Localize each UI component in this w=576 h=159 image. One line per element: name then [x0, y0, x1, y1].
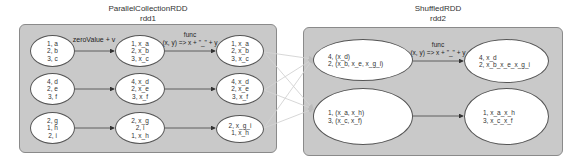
node-line: 3, (x_c, x_f) [328, 117, 362, 125]
node-line: 3, f [48, 93, 57, 101]
node-line: 3, c [47, 55, 57, 63]
rdd2-arrows [413, 61, 463, 116]
rdd1-mapped-node-1: 1, x_a 2, x_b 3, x_c [115, 35, 165, 67]
node-line: 1, x_a_x_h [483, 109, 515, 117]
node-line: 2, x_b [231, 47, 249, 55]
node-line: 4, x_d [479, 54, 497, 62]
node-line: 2, i [48, 132, 57, 140]
node-line: 1, (x_a, x_h) [328, 109, 364, 117]
rdd1-combined-node-2: 4, x_d 2, x_e 3, x_f [216, 73, 264, 105]
rdd1-input-node-2: 4, d 2, e 3, f [30, 73, 75, 105]
rdd1-input-node-3: 2, g 1, h 2, i [30, 112, 75, 144]
rdd2-func-expr: (x, y) => x + "_" + y [403, 49, 473, 57]
node-line: 1, x_h [131, 132, 149, 140]
node-line: 1, h [47, 124, 58, 132]
node-line: 2, x_e [231, 85, 249, 93]
rdd2-func-label: func (x, y) => x + "_" + y [403, 41, 473, 56]
node-line: 2, x_e [131, 85, 149, 93]
node-line: 2, (x_b, x_e, x_g_i) [328, 60, 383, 68]
node-line: 3, x_f [132, 93, 148, 101]
node-line: 4, (x_d) [328, 53, 350, 61]
shuffle-lines [264, 52, 313, 128]
node-line: 1, a [47, 40, 58, 48]
node-line: 1, x_a [131, 40, 149, 48]
rdd1-combined-node-1: 1, x_a 2, x_b 3, x_c [216, 35, 264, 67]
node-line: 2, x_b [131, 47, 149, 55]
node-line: 3, x_f [232, 93, 248, 101]
rdd2-func-name: func [403, 41, 473, 49]
rdd2-result-node-1: 4, x_d 2, x_b_x_e_x_g_i [464, 39, 549, 83]
node-line: 4, d [47, 78, 58, 86]
node-line: 2, b [47, 47, 58, 55]
node-line: 2, x_b_x_e_x_g_i [479, 61, 530, 69]
rdd2-result-node-2: 1, x_a_x_h 3, x_c_x_f [464, 88, 549, 145]
node-line: 2, e [47, 85, 58, 93]
rdd2-grouped-node-2: 1, (x_a, x_h) 3, (x_c, x_f) [313, 88, 413, 145]
node-line: 2, g [47, 117, 58, 125]
node-line: 3, x_c_x_f [483, 117, 513, 125]
node-line: 3, x_c [131, 55, 148, 63]
node-line: 1, x_h [231, 129, 249, 137]
node-line: 2, i [136, 124, 145, 132]
rdd1-mapped-node-2: 4, x_d 2, x_e 3, x_f [115, 73, 165, 105]
node-line: 4, x_d [231, 78, 249, 86]
rdd1-mapped-node-3: 2, x_g 2, i 1, x_h [115, 112, 165, 144]
rdd1-func-expr: (x, y) => x + "_" + y [155, 39, 225, 47]
zero-value-label: zeroValue + v [64, 36, 124, 44]
node-line: 2, x_g [131, 117, 149, 125]
node-line: 1, x_a [231, 40, 249, 48]
rdd1-input-node-1: 1, a 2, b 3, c [30, 35, 75, 67]
rdd1-func-name: func [155, 31, 225, 39]
node-line: 3, x_c [231, 55, 248, 63]
rdd1-func-label: func (x, y) => x + "_" + y [155, 31, 225, 46]
rdd1-combined-node-3: 2, x_g_i 1, x_h [216, 115, 264, 143]
node-line: 4, x_d [131, 78, 149, 86]
rdd2-grouped-node-1: 4, (x_d) 2, (x_b, x_e, x_g_i) [313, 39, 413, 81]
node-line: 2, x_g_i [229, 122, 252, 130]
